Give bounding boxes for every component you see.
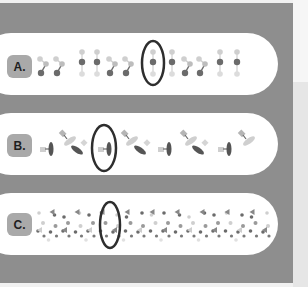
row-c-particles	[0, 0, 308, 287]
